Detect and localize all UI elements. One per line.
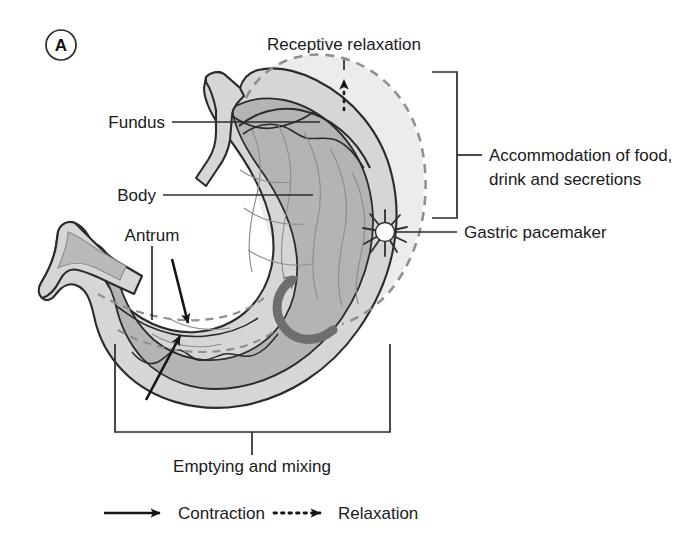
label-body: Body xyxy=(117,186,156,205)
gastric-motility-figure: A Fundus Body Antrum Receptive relaxatio… xyxy=(0,0,686,545)
contraction-arrow-upper xyxy=(172,259,188,323)
legend-label-contraction: Contraction xyxy=(178,504,265,523)
label-emptying-and-mixing: Emptying and mixing xyxy=(173,457,331,476)
legend-label-relaxation: Relaxation xyxy=(338,504,418,523)
panel-label-text: A xyxy=(55,36,67,55)
label-antrum: Antrum xyxy=(125,226,180,245)
stomach-illustration xyxy=(39,55,426,408)
label-accommodation-line2: drink and secretions xyxy=(489,170,641,189)
label-gastric-pacemaker: Gastric pacemaker xyxy=(464,223,607,242)
label-fundus: Fundus xyxy=(108,113,165,132)
figure-canvas: A Fundus Body Antrum Receptive relaxatio… xyxy=(0,0,686,545)
accommodation-bracket xyxy=(432,72,482,218)
label-accommodation-line1: Accommodation of food, xyxy=(489,146,672,165)
label-receptive-relaxation: Receptive relaxation xyxy=(267,35,421,54)
panel-label: A xyxy=(46,30,76,60)
legend: Contraction Relaxation xyxy=(104,504,418,523)
